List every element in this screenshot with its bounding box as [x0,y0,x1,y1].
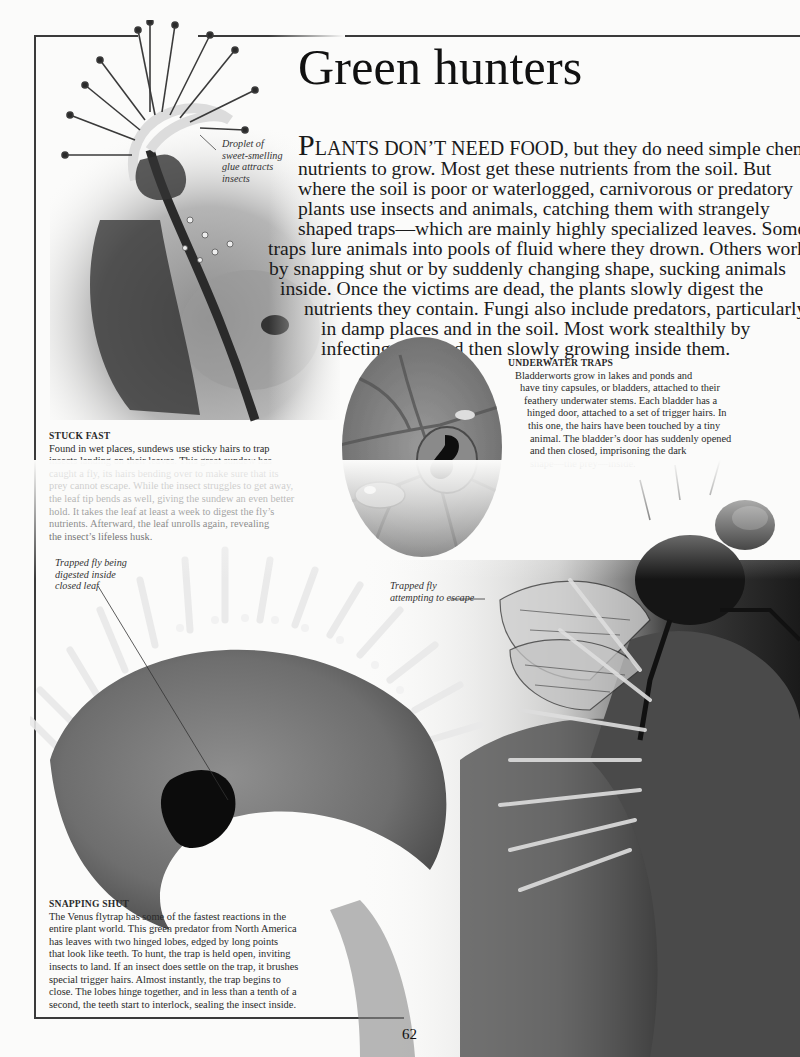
trapped-fly-escape-label: Trapped fly attempting to escape [390,580,474,603]
caption-heading: SNAPPING SHUT [49,898,298,911]
page-title: Green hunters [298,38,582,96]
intro-line: by snapping shut or by suddenly changing… [268,259,798,279]
intro-line: where the soil is poor or waterlogged, c… [268,179,798,199]
intro-line: traps lure animals into pools of fluid w… [268,239,798,259]
page-number: 62 [402,1026,417,1043]
intro-line: nutrients to grow. Most get these nutrie… [268,159,798,179]
intro-line: nutrients they contain. Fungi also inclu… [268,299,798,319]
caption-heading: UNDERWATER TRAPS [508,357,731,370]
intro-line: plants use insects and animals, catching… [268,199,798,219]
drop-cap: P [298,128,315,161]
trapped-fly-digested-label: Trapped fly being digested inside closed… [55,557,127,592]
intro-line: PLANTS DON’T NEED FOOD, but they do need… [268,135,798,159]
intro-line: shaped traps—which are mainly highly spe… [268,219,798,239]
intro-paragraph: PLANTS DON’T NEED FOOD, but they do need… [268,135,798,359]
intro-small-caps: LANTS DON’T NEED FOOD [315,137,564,159]
intro-line: inside. Once the victims are dead, the p… [268,279,798,299]
caption-underwater-traps: UNDERWATER TRAPS Bladderworts grow in la… [508,357,731,470]
caption-snapping-shut: SNAPPING SHUT The Venus flytrap has some… [49,898,298,1011]
caption-heading: STUCK FAST [49,430,294,443]
droplet-label: Droplet of sweet-smelling glue attracts … [222,138,283,184]
